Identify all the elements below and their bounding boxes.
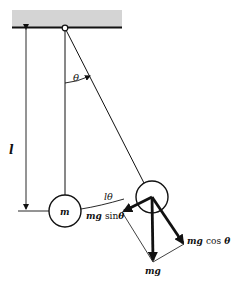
angle-label: θ	[73, 72, 79, 83]
component-guide-left	[122, 212, 153, 262]
length-label: l	[9, 143, 14, 157]
component-guide-right	[153, 244, 184, 262]
displaced-string	[66, 30, 144, 183]
normal-force-arrow	[152, 197, 183, 243]
mass-label: m	[60, 207, 70, 217]
arc-length-label: lθ	[104, 191, 113, 202]
tangential-force-label: mg sinθ	[86, 211, 124, 221]
weight-arrow	[152, 197, 153, 260]
normal-force-label: mg cos θ	[187, 236, 230, 246]
tangential-force-arrow	[124, 197, 152, 211]
pendulum-diagram: θ l m lθ mg sinθ mg cos θ mg	[0, 0, 238, 288]
weight-label: mg	[145, 266, 161, 276]
pivot-icon	[62, 25, 68, 31]
arc-path	[81, 199, 124, 209]
ceiling-support	[12, 10, 122, 27]
